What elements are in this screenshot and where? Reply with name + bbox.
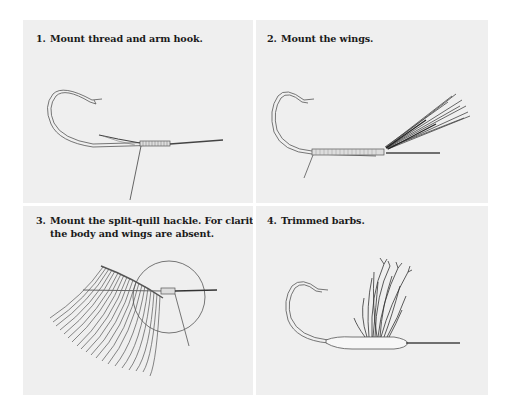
- panel-step-4: 4.Trimmed barbs.: [256, 206, 488, 395]
- panel-step-2: 2.Mount the wings.: [256, 20, 488, 203]
- hook-thread-illustration: [23, 20, 253, 203]
- trimmed-barbs-illustration: [256, 206, 488, 395]
- mounted-wings-illustration: [256, 20, 488, 203]
- panel-step-3: 3.Mount the split-quill hackle. For clar…: [23, 206, 253, 395]
- split-quill-hackle-illustration: [23, 206, 253, 395]
- panel-step-1: 1.Mount thread and arm hook.: [23, 20, 253, 203]
